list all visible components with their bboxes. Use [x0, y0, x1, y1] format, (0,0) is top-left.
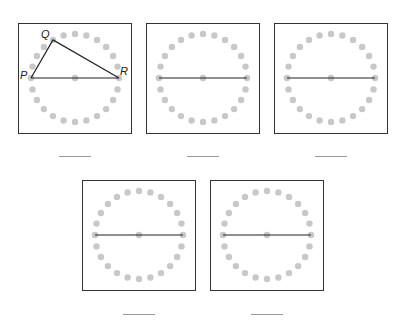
dot	[370, 86, 376, 92]
dot	[295, 201, 301, 207]
dot	[124, 274, 130, 280]
answer-blank-4[interactable]	[123, 314, 155, 315]
dot	[200, 31, 206, 37]
answer-blank-2[interactable]	[187, 156, 219, 157]
label-r: R	[120, 65, 128, 77]
dot	[297, 106, 303, 112]
dot	[41, 106, 47, 112]
dot	[93, 220, 99, 226]
dot	[222, 37, 228, 43]
dot	[252, 274, 258, 280]
dot	[302, 254, 308, 260]
dot	[83, 117, 89, 123]
dot	[29, 86, 35, 92]
dot	[350, 113, 356, 119]
dot	[366, 53, 372, 59]
dot	[41, 44, 47, 50]
diagram-panel-5	[210, 180, 324, 291]
dot	[94, 113, 100, 119]
answer-blank-5[interactable]	[251, 314, 283, 315]
answer-blank-1[interactable]	[59, 156, 91, 157]
dot	[285, 63, 291, 69]
dot	[233, 201, 239, 207]
dot	[226, 210, 232, 216]
dot	[238, 53, 244, 59]
dot	[158, 270, 164, 276]
dot	[221, 243, 227, 249]
dot	[275, 189, 281, 195]
dot	[157, 86, 163, 92]
dot	[285, 86, 291, 92]
dot	[103, 106, 109, 112]
dot	[169, 106, 175, 112]
dot	[226, 254, 232, 260]
dot	[98, 254, 104, 260]
dot	[29, 63, 35, 69]
dot	[359, 106, 365, 112]
dot	[242, 194, 248, 200]
dot	[178, 220, 184, 226]
dot	[34, 53, 40, 59]
dot	[136, 188, 142, 194]
dot	[339, 117, 345, 123]
dot	[162, 53, 168, 59]
dot	[114, 270, 120, 276]
dot	[242, 86, 248, 92]
dot	[136, 276, 142, 282]
label-p: P	[20, 69, 28, 81]
dot	[169, 44, 175, 50]
dot	[211, 32, 217, 38]
circle-dots-diagram: PQR	[19, 24, 131, 133]
dot	[328, 119, 334, 125]
dot	[174, 254, 180, 260]
dot	[200, 119, 206, 125]
dot	[72, 31, 78, 37]
dot	[231, 44, 237, 50]
dot	[178, 243, 184, 249]
dot	[339, 32, 345, 38]
diagram-panel-1: PQR	[18, 23, 132, 134]
dot	[306, 37, 312, 43]
dot	[252, 189, 258, 195]
dot	[306, 243, 312, 249]
dot	[162, 97, 168, 103]
dot	[316, 117, 322, 123]
dot	[233, 263, 239, 269]
dot	[290, 97, 296, 103]
dot	[275, 274, 281, 280]
diagram-panel-4	[82, 180, 196, 291]
dot	[242, 63, 248, 69]
dot	[359, 44, 365, 50]
dot	[158, 194, 164, 200]
dot	[103, 44, 109, 50]
dot	[286, 194, 292, 200]
dot	[188, 117, 194, 123]
dot	[178, 37, 184, 43]
dot	[238, 97, 244, 103]
dot	[167, 263, 173, 269]
dot	[93, 243, 99, 249]
dot	[34, 97, 40, 103]
dot	[221, 220, 227, 226]
dot	[242, 270, 248, 276]
dot	[264, 276, 270, 282]
dot	[222, 113, 228, 119]
dot	[105, 201, 111, 207]
label-q: Q	[41, 28, 50, 40]
dot	[306, 220, 312, 226]
dot	[157, 63, 163, 69]
dot	[114, 194, 120, 200]
dot	[178, 113, 184, 119]
dot	[316, 32, 322, 38]
dot	[297, 44, 303, 50]
dot	[94, 37, 100, 43]
dot	[302, 210, 308, 216]
dot	[167, 201, 173, 207]
diagram-panel-3	[274, 23, 388, 134]
diagram-panel-2	[146, 23, 260, 134]
dot	[147, 189, 153, 195]
circle-dots-diagram	[83, 181, 195, 290]
dot	[286, 270, 292, 276]
answer-blank-3[interactable]	[315, 156, 347, 157]
dot	[114, 86, 120, 92]
